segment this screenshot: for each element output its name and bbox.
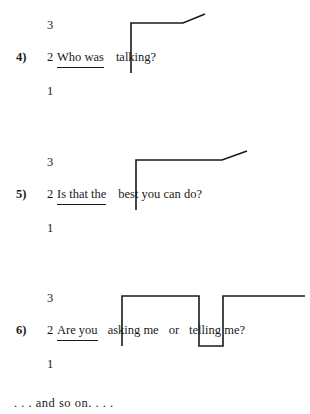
exercise-item-4: 3 4) 2 1 Who wastalking? [0, 0, 310, 135]
exercise-number-4: 4) [16, 50, 26, 64]
trailing-note: . . . and so on. . . . [14, 396, 114, 410]
sentence-chunk: asking me [108, 322, 159, 338]
pitch-level-2: 2 [44, 187, 56, 201]
exercise-item-6: 3 6) 2 1 Are youasking meortelling me? [0, 273, 310, 408]
sentence-chunk: Who was [57, 49, 104, 68]
pitch-level-1: 1 [44, 221, 56, 235]
sentence-chunk: Are you [57, 322, 98, 341]
pitch-level-3: 3 [44, 291, 56, 305]
pitch-level-2: 2 [44, 50, 56, 64]
pitch-level-3: 3 [44, 155, 56, 169]
exercise-number-6: 6) [16, 323, 26, 337]
sentence-4: Who wastalking? [57, 49, 310, 65]
sentence-6: Are youasking meortelling me? [57, 322, 310, 338]
sentence-chunk: Is that the [57, 186, 106, 205]
exercise-item-5: 3 5) 2 1 Is that thebest you can do? [0, 137, 310, 272]
worksheet-page: 3 4) 2 1 Who wastalking? 3 5) 2 1 Is tha… [0, 0, 310, 414]
pitch-level-1: 1 [44, 357, 56, 371]
pitch-level-2: 2 [44, 323, 56, 337]
pitch-level-1: 1 [44, 84, 56, 98]
sentence-5: Is that thebest you can do? [57, 186, 310, 202]
contour-path [122, 296, 305, 346]
pitch-level-3: 3 [44, 18, 56, 32]
sentence-chunk: telling me? [189, 322, 245, 338]
sentence-chunk: talking? [116, 49, 156, 65]
sentence-chunk: best you can do? [118, 186, 202, 202]
sentence-chunk: or [169, 322, 179, 338]
exercise-number-5: 5) [16, 187, 26, 201]
